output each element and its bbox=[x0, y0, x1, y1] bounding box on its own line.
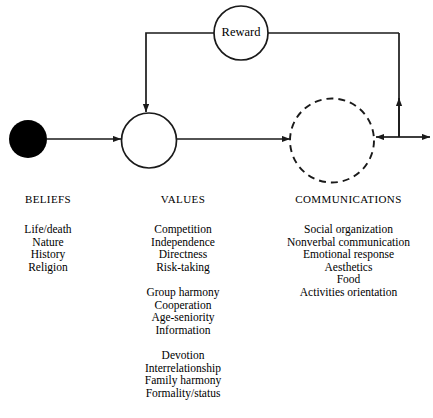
list-item: History bbox=[0, 248, 96, 261]
list-item: Family harmony bbox=[118, 374, 248, 387]
communications-node bbox=[290, 99, 374, 183]
column-list-beliefs: Life/death Nature History Religion bbox=[0, 223, 96, 273]
list-item: Devotion bbox=[118, 349, 248, 362]
list-item: Formality/status bbox=[118, 387, 248, 400]
list-item: Interrelationship bbox=[118, 362, 248, 375]
list-item: Food bbox=[264, 273, 433, 286]
list-item: Nonverbal communication bbox=[264, 236, 433, 249]
column-values: VALUES Competition Independence Directne… bbox=[118, 193, 248, 399]
list-item: Religion bbox=[0, 261, 96, 274]
list-item: Information bbox=[118, 324, 248, 337]
list-item: Aesthetics bbox=[264, 261, 433, 274]
list-item: Age-seniority bbox=[118, 311, 248, 324]
list-item: Life/death bbox=[0, 223, 96, 236]
values-node bbox=[122, 113, 177, 168]
list-item: Cooperation bbox=[118, 299, 248, 312]
beliefs-node bbox=[9, 120, 47, 158]
list-item: Activities orientation bbox=[264, 286, 433, 299]
list-item: Group harmony bbox=[118, 286, 248, 299]
list-item: Directness bbox=[118, 248, 248, 261]
column-communications: COMMUNICATIONS Social organization Nonve… bbox=[264, 193, 433, 299]
list-item: Risk-taking bbox=[118, 261, 248, 274]
diagram-page: Reward BELIEFS Life/death Nature History… bbox=[0, 0, 433, 418]
column-heading-communications: COMMUNICATIONS bbox=[264, 193, 433, 205]
list-item: Independence bbox=[118, 236, 248, 249]
column-beliefs: BELIEFS Life/death Nature History Religi… bbox=[0, 193, 96, 273]
column-heading-beliefs: BELIEFS bbox=[0, 193, 96, 205]
reward-node-label: Reward bbox=[211, 26, 271, 39]
column-heading-values: VALUES bbox=[118, 193, 248, 205]
list-item: Social organization bbox=[264, 223, 433, 236]
column-list-values: Competition Independence Directness Risk… bbox=[118, 223, 248, 399]
column-list-communications: Social organization Nonverbal communicat… bbox=[264, 223, 433, 299]
list-item: Competition bbox=[118, 223, 248, 236]
list-item: Emotional response bbox=[264, 248, 433, 261]
list-item: Nature bbox=[0, 236, 96, 249]
edge-reward-to-values bbox=[146, 33, 214, 112]
